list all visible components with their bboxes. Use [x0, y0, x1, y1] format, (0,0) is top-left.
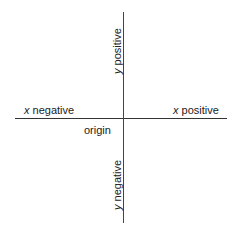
y-axis	[123, 12, 124, 223]
negative-word: negative	[33, 104, 75, 116]
x-variable: x	[24, 104, 30, 116]
negative-word: negative	[111, 160, 123, 202]
x-axis	[15, 118, 227, 119]
y-variable: y	[111, 205, 123, 211]
x-positive-label: x positive	[173, 104, 219, 116]
origin-label: origin	[84, 124, 111, 136]
y-negative-label: y negative	[111, 160, 123, 210]
y-variable: y	[111, 69, 123, 75]
x-negative-label: x negative	[24, 104, 74, 116]
x-variable: x	[173, 104, 179, 116]
y-positive-label: y positive	[111, 28, 123, 74]
positive-word: positive	[111, 28, 123, 65]
positive-word: positive	[182, 104, 219, 116]
